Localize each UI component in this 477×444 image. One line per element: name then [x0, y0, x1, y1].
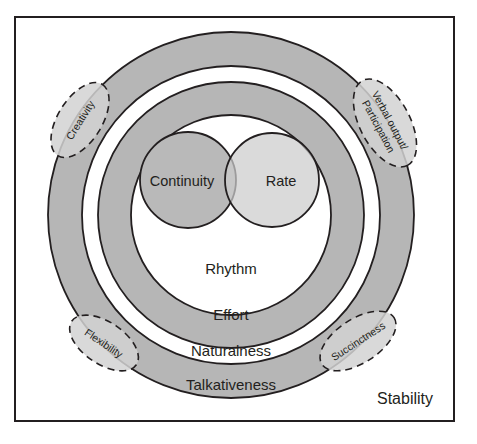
third-ring-label: Effort	[213, 306, 249, 323]
continuity-circle-label: Continuity	[150, 173, 215, 189]
inner-disc-label: Rhythm	[205, 260, 257, 277]
outer-ring-label: Talkativeness	[186, 376, 276, 393]
stability-label: Stability	[377, 390, 433, 407]
rate-circle-label: Rate	[266, 173, 297, 189]
ring-diagram: Rhythm Effort Naturalness Talkativeness …	[0, 0, 477, 444]
diagram-canvas: Rhythm Effort Naturalness Talkativeness …	[0, 0, 477, 444]
second-ring-label: Naturalness	[191, 342, 271, 359]
